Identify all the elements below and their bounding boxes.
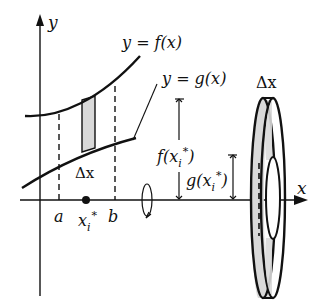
y-axis: [36, 14, 44, 296]
label-a: a: [54, 207, 64, 226]
label-xi: xi*: [78, 209, 98, 234]
washer-method-figure: y x y = f(x) y = g(x) Δx a b xi* f(xi*): [0, 0, 322, 308]
shaded-strip: [82, 96, 95, 152]
point-xi: [82, 196, 90, 204]
washer-dx-label: Δx: [256, 73, 277, 92]
label-inner-radius: g(xi*): [186, 169, 228, 194]
washer: [251, 98, 285, 298]
label-b: b: [108, 207, 118, 226]
inner-radius-arrow: [228, 155, 237, 199]
label-outer-radius: f(xi*): [156, 145, 194, 170]
x-axis-label: x: [297, 178, 307, 198]
strip-dx-label: Δx: [75, 164, 95, 182]
label-g: y = g(x): [161, 69, 226, 88]
rotation-arrow-icon: [142, 184, 152, 218]
leader-g: [133, 84, 157, 140]
y-axis-label: y: [47, 12, 58, 32]
label-f: y = f(x): [121, 33, 182, 52]
